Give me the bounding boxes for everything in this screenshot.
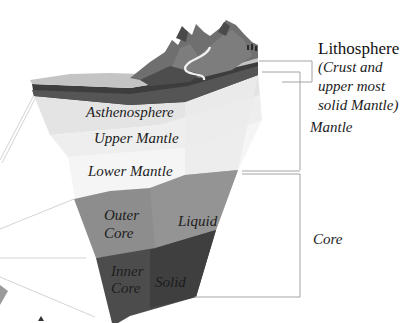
fragment-dot [38,316,44,321]
fragment-shape [0,285,8,305]
lower-mantle-label: Lower Mantle [88,164,173,179]
solid-label: Solid [155,275,186,290]
mantle-label: Mantle [310,120,353,135]
asthenosphere-label: Asthenosphere [86,105,174,120]
inner-core-label-line1: Inner [111,264,144,279]
inner-core-label-line2: Core [111,281,140,296]
outer-core-label-line1: Outer [104,208,139,223]
upper-mantle-label: Upper Mantle [94,131,179,146]
outer-core-label-line2: Core [104,226,133,241]
core-label: Core [313,232,342,247]
lithosphere-label: Lithosphere [318,40,399,57]
liquid-label: Liquid [178,214,217,229]
lithosphere-note: (Crust and upper most solid Mantle) [318,58,398,115]
